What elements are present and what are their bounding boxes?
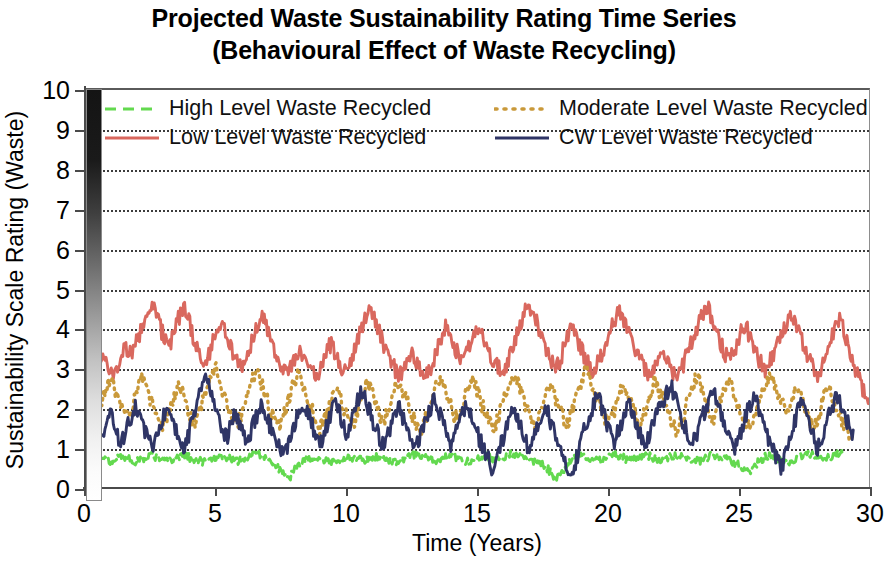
y-axis-tick [75, 130, 84, 132]
x-axis-tick-label: 30 [856, 501, 884, 526]
vertical-grayscale-gradient-bar [86, 89, 102, 501]
dotted-orange-line-swatch [494, 102, 550, 116]
y-axis-tick-label: 6 [56, 237, 70, 262]
legend-label: CW Level Waste Recycled [559, 127, 813, 149]
y-axis-tick [75, 250, 84, 252]
y-axis-tick-label: 3 [56, 357, 70, 382]
series-line [84, 445, 843, 480]
chart-title: Projected Waste Sustainability Rating Ti… [0, 2, 888, 66]
legend-label: High Level Waste Recycled [169, 98, 431, 120]
solid-red-line-swatch [104, 131, 160, 145]
y-axis-tick-label: 7 [56, 197, 70, 222]
x-axis-tick-label: 5 [208, 501, 222, 526]
y-axis-tick-label: 9 [56, 117, 70, 142]
legend-entry[interactable]: High Level Waste Recycled [104, 98, 494, 120]
y-axis-tick [75, 90, 84, 92]
y-axis-tick [75, 409, 84, 411]
legend-label: Moderate Level Waste Recycled [559, 98, 868, 120]
chart-title-line-1: Projected Waste Sustainability Rating Ti… [0, 2, 888, 34]
chart-legend: High Level Waste RecycledModerate Level … [104, 94, 864, 152]
y-axis-tick [75, 210, 84, 212]
x-axis-tick-label: 10 [332, 501, 360, 526]
y-axis-tick-label: 0 [56, 477, 70, 502]
y-axis-tick [75, 290, 84, 292]
x-axis-tick-label: 25 [725, 501, 753, 526]
dashed-green-line-swatch [104, 102, 160, 116]
x-axis-tick-label: 15 [463, 501, 491, 526]
y-axis-tick-label: 4 [56, 317, 70, 342]
y-axis-tick [75, 369, 84, 371]
legend-entry[interactable]: CW Level Waste Recycled [494, 127, 864, 149]
y-axis-tick-label: 10 [42, 78, 70, 103]
x-axis-label: Time (Years) [84, 530, 870, 557]
y-axis-tick-label: 5 [56, 277, 70, 302]
y-axis-tick [75, 329, 84, 331]
chart-title-line-2: (Behavioural Effect of Waste Recycling) [0, 34, 888, 66]
y-axis-label: Sustainability Scale Rating (Waste) [2, 80, 29, 500]
x-axis-tick-label: 20 [594, 501, 622, 526]
y-axis-tick-label: 8 [56, 157, 70, 182]
solid-navy-line-swatch [494, 131, 550, 145]
y-axis-tick [75, 489, 84, 491]
chart-figure: Projected Waste Sustainability Rating Ti… [0, 0, 888, 566]
legend-label: Low Level Waste Recycled [169, 127, 426, 149]
y-axis-tick-label: 1 [56, 437, 70, 462]
y-axis-tick [75, 170, 84, 172]
y-axis-tick-label: 2 [56, 397, 70, 422]
x-axis-spine [83, 487, 871, 489]
legend-entry[interactable]: Moderate Level Waste Recycled [494, 98, 864, 120]
x-axis-tick-label: 0 [77, 501, 91, 526]
y-axis-tick [75, 449, 84, 451]
series-line [84, 362, 853, 440]
legend-entry[interactable]: Low Level Waste Recycled [104, 127, 494, 149]
